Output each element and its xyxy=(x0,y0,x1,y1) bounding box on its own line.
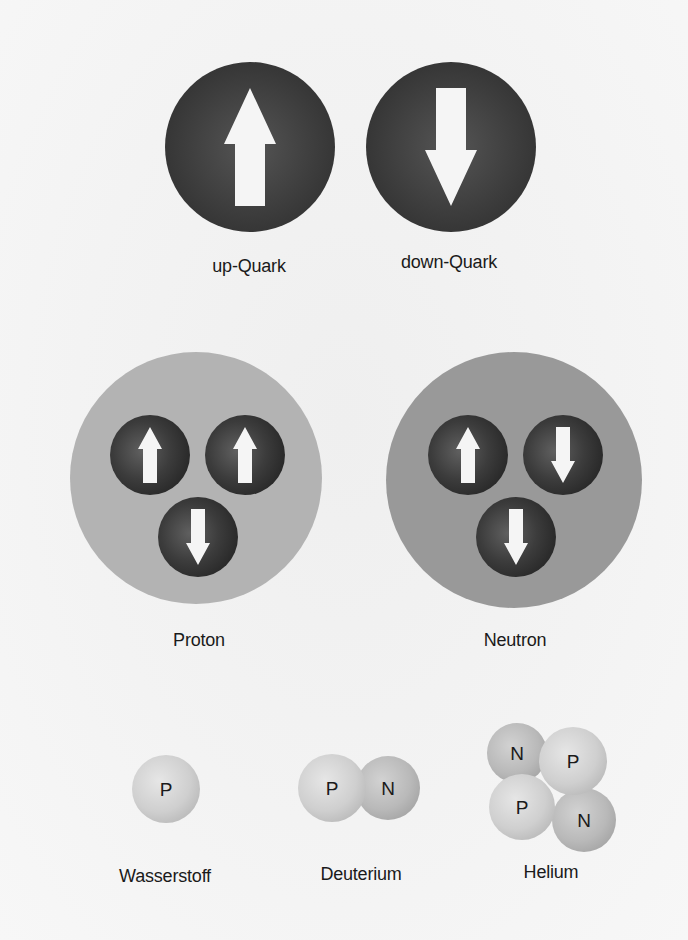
particle-letter: P xyxy=(567,751,580,772)
neutron xyxy=(386,352,642,608)
proton xyxy=(70,352,322,604)
up-quark xyxy=(110,415,190,495)
proton-ball: P xyxy=(298,754,366,822)
quark-row xyxy=(165,62,536,232)
helium-nucleus: NNPP xyxy=(487,723,616,852)
wasserstoff-label: Wasserstoff xyxy=(119,866,211,887)
wasserstoff-nucleus: P xyxy=(132,755,200,823)
quark-nucleon-diagram: PNPNNPP up-Quark down-Quark Proton Neutr… xyxy=(0,0,688,940)
particle-letter: P xyxy=(160,779,173,800)
down-quark xyxy=(366,62,536,232)
nuclei-row: PNPNNPP xyxy=(132,723,616,852)
neutron-ball: N xyxy=(552,788,616,852)
up-quark-label: up-Quark xyxy=(212,256,285,277)
particle-letter: N xyxy=(381,778,395,799)
down-quark-label: down-Quark xyxy=(401,252,497,273)
nucleon-row xyxy=(70,352,642,608)
neutron-ball: N xyxy=(487,723,547,783)
proton-ball: P xyxy=(132,755,200,823)
deuterium-nucleus: NP xyxy=(298,754,420,822)
particle-letter: P xyxy=(516,797,529,818)
down-quark xyxy=(523,415,603,495)
particle-letter: P xyxy=(326,778,339,799)
deuterium-label: Deuterium xyxy=(320,864,401,885)
proton-ball: P xyxy=(489,774,555,840)
diagram-canvas: PNPNNPP xyxy=(0,0,688,940)
down-quark xyxy=(158,497,238,577)
down-quark xyxy=(476,497,556,577)
up-quark xyxy=(205,415,285,495)
proton-label: Proton xyxy=(173,630,225,651)
up-quark xyxy=(165,62,335,232)
particle-letter: N xyxy=(510,743,524,764)
particle-letter: N xyxy=(577,810,591,831)
helium-label: Helium xyxy=(524,862,579,883)
up-quark xyxy=(428,415,508,495)
proton-ball: P xyxy=(539,727,607,795)
neutron-label: Neutron xyxy=(484,630,547,651)
